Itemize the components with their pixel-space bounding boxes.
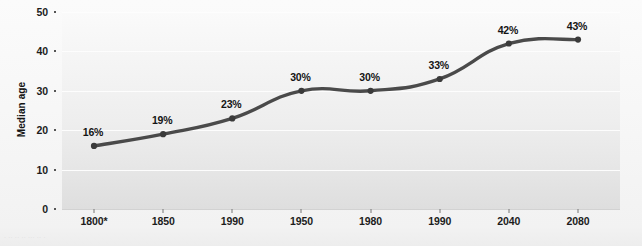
x-tick-mark: [301, 209, 302, 213]
x-tick-mark: [370, 209, 371, 213]
data-point-marker: [367, 88, 373, 94]
x-tick-label: 1950: [290, 215, 313, 227]
y-axis-title: Median age: [16, 82, 27, 137]
data-point-marker: [298, 88, 304, 94]
data-point-marker: [160, 131, 166, 137]
x-tick-mark: [508, 209, 509, 213]
x-tick-mark: [439, 209, 440, 213]
x-tick-mark: [163, 209, 164, 213]
x-axis: 1800*1850199019501980199020402080: [62, 209, 620, 233]
x-tick-label: 2080: [567, 215, 590, 227]
y-tick-label: 0: [42, 203, 48, 215]
y-tick-mark: [54, 169, 56, 171]
data-point-label: 19%: [152, 114, 172, 126]
data-point-marker: [437, 76, 443, 82]
data-point-label: 43%: [567, 20, 587, 32]
y-tick-label: 40: [37, 45, 48, 57]
x-tick-mark: [94, 209, 95, 213]
x-tick-mark: [232, 209, 233, 213]
data-point-marker: [575, 36, 581, 42]
data-point-label: 42%: [498, 24, 518, 36]
x-tick-label: 1980: [359, 215, 382, 227]
x-tick-label: 1990: [428, 215, 451, 227]
data-point-marker: [506, 40, 512, 46]
y-tick-label: 20: [37, 124, 48, 136]
y-tick-mark: [54, 90, 56, 92]
y-tick-mark: [54, 208, 56, 210]
footnote-text: · ·· ·· ·· ··· ·· ·: [4, 234, 46, 240]
y-tick-label: 30: [37, 85, 48, 97]
y-tick-label: 50: [37, 6, 48, 18]
data-point-marker: [91, 143, 97, 149]
x-tick-label: 1800*: [81, 215, 108, 227]
x-tick-label: 1990: [221, 215, 244, 227]
x-tick-label: 1850: [152, 215, 175, 227]
data-point-label: 33%: [428, 59, 448, 71]
data-point-label: 30%: [290, 71, 310, 83]
y-tick-mark: [54, 129, 56, 131]
series-line: [94, 39, 578, 146]
y-tick-mark: [54, 50, 56, 52]
data-point-marker: [229, 115, 235, 121]
data-point-label: 23%: [221, 98, 241, 110]
data-series-line: [62, 12, 620, 209]
y-axis: Median age 50403020100: [0, 0, 62, 209]
data-point-label: 16%: [83, 126, 103, 138]
y-tick-mark: [54, 11, 56, 13]
x-tick-label: 2040: [497, 215, 520, 227]
footnote-strip: · ·· ·· ·· ··· ·· ·: [0, 233, 642, 246]
data-point-label: 30%: [359, 71, 379, 83]
y-tick-label: 10: [37, 164, 48, 176]
chart-figure: Median age 50403020100 1800*185019901950…: [0, 0, 642, 246]
x-tick-mark: [578, 209, 579, 213]
